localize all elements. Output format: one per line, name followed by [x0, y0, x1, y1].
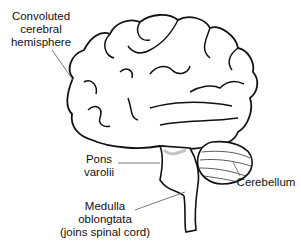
label-cerebral-hemisphere: Convoluted cerebral hemisphere	[6, 10, 76, 49]
label-pons-varolii: Pons varolii	[82, 153, 116, 179]
label-cerebellum: Cerebellum	[234, 176, 298, 189]
brainstem	[160, 146, 199, 232]
brain-diagram: Convoluted cerebral hemisphere Pons varo…	[0, 0, 301, 246]
label-medulla-oblongata: Medulla oblongtata (joins spinal cord)	[50, 200, 160, 239]
